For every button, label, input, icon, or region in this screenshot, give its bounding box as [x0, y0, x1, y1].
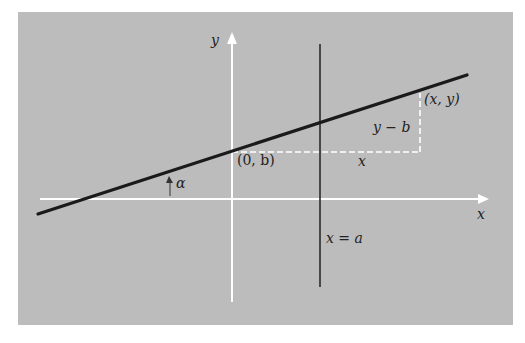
point-label: (x, y)	[424, 92, 460, 106]
vertical-line-label: x = a	[326, 231, 363, 245]
y-axis	[227, 32, 237, 302]
x-axis	[40, 194, 489, 204]
sloped-line	[38, 75, 467, 214]
angle-label: α	[176, 176, 185, 190]
line-diagram	[0, 0, 525, 343]
rise-label: y − b	[373, 120, 411, 134]
run-label: x	[358, 154, 366, 168]
y-axis-label: y	[211, 33, 219, 47]
intercept-label: (0, b)	[237, 153, 275, 167]
angle-arrow-icon	[166, 176, 173, 196]
x-axis-label: x	[477, 207, 485, 221]
x-axis-arrow-icon	[478, 194, 489, 204]
y-axis-arrow-icon	[227, 32, 237, 44]
